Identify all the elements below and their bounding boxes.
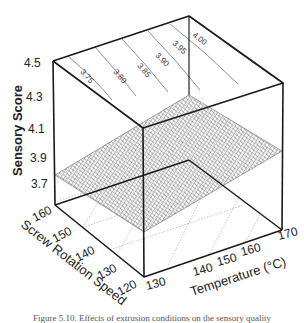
svg-text:170: 170 <box>276 224 299 243</box>
svg-text:3.75: 3.75 <box>78 68 95 86</box>
svg-text:4.5: 4.5 <box>24 56 41 70</box>
z-axis: 4.5 4.3 4.1 3.9 3.7 Sensory Score <box>10 56 48 191</box>
svg-text:3.9: 3.9 <box>30 151 47 165</box>
z-axis-label: Sensory Score <box>10 85 25 176</box>
svg-text:4.00: 4.00 <box>191 30 209 47</box>
surface-plot: 3.75 3.80 3.85 3.90 3.95 4.00 4.5 4.3 4.… <box>0 0 304 323</box>
svg-text:3.95: 3.95 <box>171 39 189 56</box>
figure-caption: Figure 5.10. Effects of extrusion condit… <box>0 313 304 323</box>
x-axis: 130 140 150 160 170 Temperature (°C) <box>144 224 299 299</box>
svg-text:140: 140 <box>191 260 214 279</box>
response-surface <box>55 95 282 232</box>
svg-text:3.90: 3.90 <box>154 51 172 69</box>
svg-text:4.3: 4.3 <box>26 90 43 104</box>
svg-text:3.85: 3.85 <box>135 62 152 80</box>
svg-text:130: 130 <box>144 274 167 293</box>
y-axis: 160 150 140 130 120 Screw Rotation Speed <box>18 203 139 308</box>
svg-text:4.1: 4.1 <box>28 122 45 136</box>
svg-text:3.7: 3.7 <box>31 177 48 191</box>
svg-text:150: 150 <box>215 250 238 269</box>
